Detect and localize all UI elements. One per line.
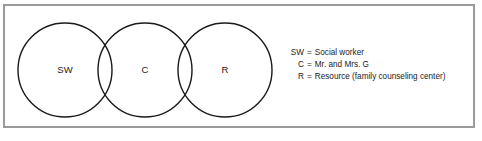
legend-item-c: C = Mr. and Mrs. G bbox=[286, 59, 476, 71]
legend-key-c: C bbox=[286, 59, 304, 71]
venn-diagram-figure: SW C R SW = Social worker C = Mr. and Mr… bbox=[0, 0, 482, 141]
venn-label-sw: SW bbox=[57, 64, 72, 75]
legend-equals-sign-c: = bbox=[304, 59, 315, 71]
legend-equals-sign-sw: = bbox=[304, 47, 315, 59]
legend-equals-sign-r: = bbox=[304, 71, 315, 83]
venn-circles-svg: SW C R bbox=[0, 0, 290, 141]
legend: SW = Social worker C = Mr. and Mrs. G R … bbox=[286, 47, 476, 84]
venn-label-r: R bbox=[222, 64, 229, 75]
legend-item-r: R = Resource (family counseling center) bbox=[286, 71, 476, 83]
venn-label-c: C bbox=[142, 64, 149, 75]
venn-diagram-area: SW C R bbox=[0, 0, 290, 141]
legend-description-sw: Social worker bbox=[315, 47, 364, 59]
legend-description-c: Mr. and Mrs. G bbox=[315, 59, 369, 71]
legend-key-r: R bbox=[286, 71, 304, 83]
legend-item-sw: SW = Social worker bbox=[286, 47, 476, 59]
legend-description-r: Resource (family counseling center) bbox=[315, 71, 446, 83]
legend-key-sw: SW bbox=[286, 47, 304, 59]
